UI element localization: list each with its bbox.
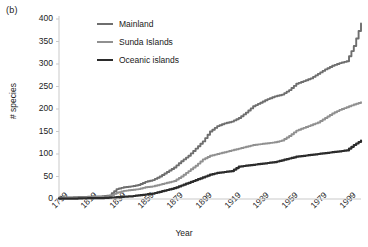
series-line-mainland [59,24,361,198]
series-line-sunda-islands [59,102,361,198]
series-line-oceanic-islands [59,141,361,199]
plot-area [0,0,368,247]
figure-panel-b: (b) # species Year 050100150200250300350… [0,0,368,247]
